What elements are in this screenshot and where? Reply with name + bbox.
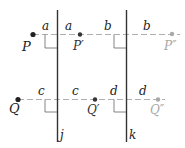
label-p: P [21, 39, 31, 54]
label-q-prime: Q′ [87, 103, 100, 117]
point-p-double-prime [170, 32, 174, 36]
distance-label-b-left: b [104, 19, 112, 33]
point-q-prime [93, 97, 97, 101]
label-p-double-prime: P″ [163, 39, 177, 53]
distance-label-c-right: c [72, 84, 79, 98]
distance-label-d-right: d [139, 84, 147, 98]
point-p-prime [78, 32, 82, 36]
right-angle-marker-q-j [45, 100, 57, 113]
distance-label-b-right: b [143, 19, 151, 33]
right-angle-marker-p-j [45, 35, 57, 49]
reflection-diagram: a a b b c c d d P P′ P″ Q Q′ Q″ j k [0, 0, 185, 148]
label-line-k: k [129, 128, 136, 142]
distance-label-a-left: a [42, 19, 49, 33]
label-p-prime: P′ [72, 39, 84, 53]
distance-label-c-left: c [38, 84, 45, 98]
right-angle-marker-p-k [114, 35, 126, 49]
point-q-double-prime [156, 97, 160, 101]
distance-label-a-right: a [65, 19, 72, 33]
distance-label-d-left: d [110, 84, 118, 98]
label-q-double-prime: Q″ [150, 103, 165, 117]
right-angle-marker-q-k [114, 100, 126, 113]
label-q: Q [9, 101, 20, 116]
point-p [30, 32, 35, 37]
